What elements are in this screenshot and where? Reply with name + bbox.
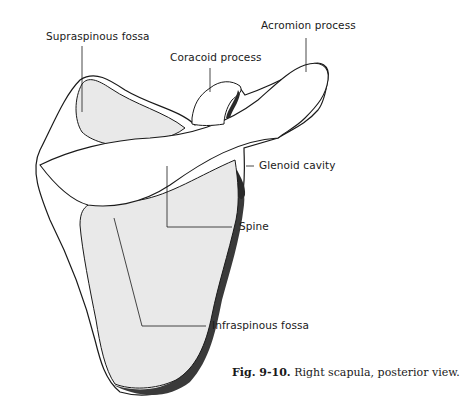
label-spine: Spine [239, 220, 269, 232]
figure-caption: Fig. 9-10. Right scapula, posterior view… [232, 366, 460, 379]
figure-caption-text: Right scapula, posterior view. [294, 366, 460, 379]
label-supraspinous-fossa: Supraspinous fossa [46, 30, 150, 42]
figure-number: Fig. 9-10. [232, 366, 291, 379]
label-glenoid-cavity: Glenoid cavity [259, 159, 336, 171]
label-acromion-process: Acromion process [261, 19, 356, 31]
label-coracoid-process: Coracoid process [170, 51, 262, 63]
label-infraspinous-fossa: Infraspinous fossa [212, 319, 309, 331]
